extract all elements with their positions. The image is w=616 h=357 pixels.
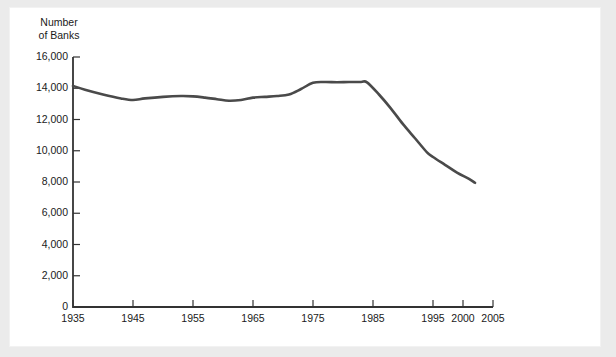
plot-svg xyxy=(10,8,600,346)
x-axis-tick-marks xyxy=(73,300,493,307)
data-series-group xyxy=(73,81,475,182)
series-line-number-of-banks xyxy=(73,81,475,182)
chart-area: Number of Banks 16,00014,00012,00010,000… xyxy=(10,8,600,346)
chart-page: Number of Banks 16,00014,00012,00010,000… xyxy=(0,0,616,357)
y-axis-tick-marks xyxy=(73,57,80,276)
chart-card: Number of Banks 16,00014,00012,00010,000… xyxy=(10,8,600,346)
